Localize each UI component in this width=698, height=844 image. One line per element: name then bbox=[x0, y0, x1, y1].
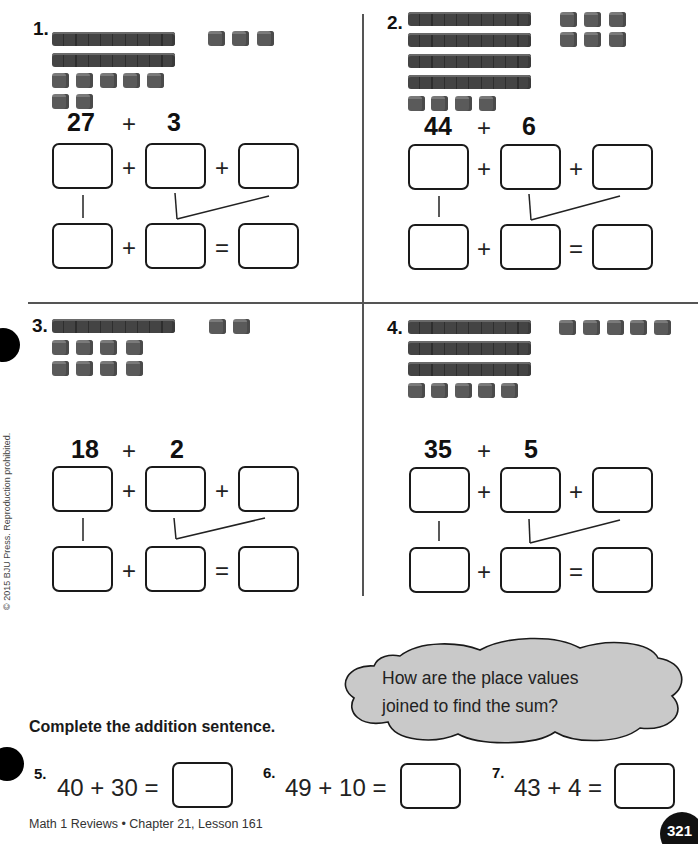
answer-box[interactable] bbox=[172, 762, 233, 808]
page-footer: Math 1 Reviews • Chapter 21, Lesson 161 bbox=[29, 817, 263, 831]
problem-number: 7. bbox=[492, 764, 505, 781]
cloud-line-2: joined to find the sum? bbox=[382, 692, 579, 720]
answer-box-tens-sum[interactable] bbox=[409, 547, 470, 593]
sentence-expression: 43 + 4 = bbox=[514, 774, 602, 802]
answer-box-total[interactable] bbox=[592, 547, 653, 593]
answer-box[interactable] bbox=[400, 763, 461, 809]
plus-sign: + bbox=[477, 560, 491, 584]
cloud-question: How are the place values joined to find … bbox=[382, 664, 579, 720]
thought-cloud: How are the place values joined to find … bbox=[340, 636, 688, 746]
instructions-heading: Complete the addition sentence. bbox=[29, 718, 275, 736]
cloud-line-1: How are the place values bbox=[382, 664, 579, 692]
problem-number: 5. bbox=[34, 765, 47, 782]
equals-sign: = bbox=[569, 560, 583, 584]
page-number: 321 bbox=[667, 822, 692, 839]
sentence-expression: 49 + 10 = bbox=[285, 774, 386, 802]
answer-box-ones-sum[interactable] bbox=[500, 547, 561, 593]
problem-number: 6. bbox=[263, 764, 276, 781]
answer-box[interactable] bbox=[614, 763, 675, 809]
sentence-expression: 40 + 30 = bbox=[57, 774, 158, 802]
